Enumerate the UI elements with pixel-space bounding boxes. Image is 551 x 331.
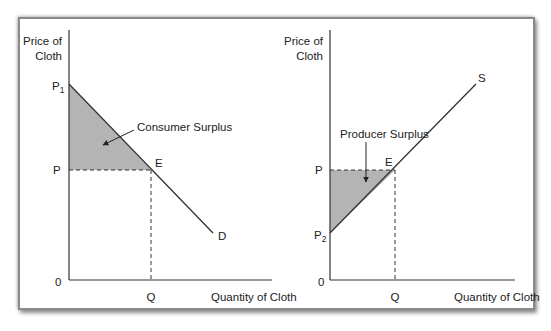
producer-surplus-panel: Price of Cloth P P2 0 Q Quantity of Clot… [284,30,540,303]
price-p2-label: P2 [314,229,327,244]
supply-curve [330,84,476,233]
origin-label: 0 [55,276,61,288]
equilibrium-label: E [155,157,163,169]
consumer-surplus-label: Consumer Surplus [137,121,232,133]
y-axis-label-line1: Price of [284,35,324,47]
y-axis-label-line2: Cloth [35,50,62,62]
origin-label: 0 [318,276,324,288]
consumer-surplus-panel: Price of Cloth P1 P 0 Q Quantity of Clot… [23,30,297,303]
y-axis-label-line1: Price of [23,35,63,47]
y-axis-label-line2: Cloth [296,50,323,62]
surplus-diagrams: Price of Cloth P1 P 0 Q Quantity of Clot… [0,0,551,331]
price-p-label: P [315,164,323,176]
producer-surplus-label: Producer Surplus [340,128,429,140]
supply-curve-label: S [478,72,486,84]
x-axis-label: Quantity of Cloth [211,291,297,303]
equilibrium-label: E [385,156,393,168]
quantity-q-label: Q [391,291,400,303]
quantity-q-label: Q [147,291,156,303]
demand-curve-label: D [218,230,226,242]
price-p-label: P [53,164,61,176]
price-p1-label: P1 [52,80,65,95]
x-axis-label: Quantity of Cloth [454,291,540,303]
